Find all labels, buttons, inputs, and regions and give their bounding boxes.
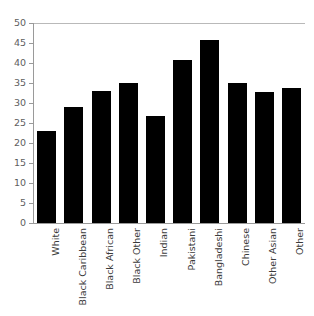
y-axis-spine [33, 23, 34, 224]
bar [282, 88, 301, 223]
bar [173, 60, 192, 223]
bar [255, 92, 274, 223]
y-tick-mark [29, 83, 33, 84]
y-tick-mark [29, 123, 33, 124]
plot-area: 05101520253035404550 [33, 23, 305, 223]
x-axis-baseline [33, 223, 305, 224]
y-tick-label: 15 [14, 158, 26, 168]
x-tick-label: Indian [159, 228, 169, 257]
y-tick-label: 10 [14, 178, 26, 188]
y-tick-mark [29, 23, 33, 24]
x-tick-label: Black Caribbean [78, 228, 88, 305]
cropped-caption-fragment [22, 0, 222, 5]
x-tick-label: Black Other [132, 228, 142, 284]
x-axis-labels: WhiteBlack CaribbeanBlack AfricanBlack O… [33, 228, 305, 316]
bar [228, 83, 247, 223]
y-tick-label: 0 [20, 218, 26, 228]
y-tick-label: 45 [14, 38, 26, 48]
top-gridline [33, 23, 305, 24]
bar [64, 107, 83, 223]
x-tick-label: Other Asian [268, 228, 278, 284]
x-tick-label: Black African [105, 228, 115, 290]
bar [146, 116, 165, 223]
y-tick-mark [29, 143, 33, 144]
y-tick-mark [29, 223, 33, 224]
x-tick-label: Other [295, 228, 305, 255]
y-tick-label: 50 [14, 18, 26, 28]
bar-chart-figure: 05101520253035404550 WhiteBlack Caribbea… [0, 0, 314, 316]
y-tick-label: 35 [14, 78, 26, 88]
bar [119, 83, 138, 223]
y-tick-label: 30 [14, 98, 26, 108]
bar [200, 40, 219, 223]
y-tick-label: 40 [14, 58, 26, 68]
bar [37, 131, 56, 223]
y-tick-label: 20 [14, 138, 26, 148]
y-tick-mark [29, 203, 33, 204]
y-tick-label: 25 [14, 118, 26, 128]
y-tick-mark [29, 43, 33, 44]
bar [92, 91, 111, 223]
y-tick-label: 5 [20, 198, 26, 208]
y-tick-mark [29, 103, 33, 104]
y-tick-mark [29, 163, 33, 164]
y-tick-mark [29, 63, 33, 64]
y-tick-mark [29, 183, 33, 184]
x-tick-label: Pakistani [187, 228, 197, 270]
x-tick-label: White [51, 228, 61, 256]
x-tick-label: Bangladeshi [214, 228, 224, 286]
x-tick-label: Chinese [241, 228, 251, 266]
